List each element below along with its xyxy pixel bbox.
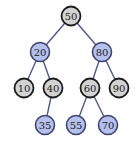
tree-edges [24, 16, 119, 125]
node-label: 55 [70, 120, 83, 131]
tree-node-60: 60 [81, 79, 100, 98]
node-label: 70 [102, 120, 115, 131]
node-label: 90 [113, 83, 126, 94]
binary-tree-diagram: 50208010406090355570 [0, 0, 140, 143]
node-label: 50 [65, 11, 78, 22]
tree-node-70: 70 [99, 116, 118, 135]
tree-node-40: 40 [44, 79, 63, 98]
node-label: 10 [18, 83, 31, 94]
tree-node-55: 55 [67, 116, 86, 135]
node-label: 40 [47, 83, 60, 94]
tree-node-10: 10 [15, 79, 34, 98]
node-label: 20 [34, 47, 47, 58]
node-label: 35 [39, 120, 52, 131]
tree-node-35: 35 [36, 116, 55, 135]
tree-node-20: 20 [31, 43, 50, 62]
tree-node-80: 80 [93, 43, 112, 62]
tree-node-50: 50 [62, 7, 81, 26]
node-label: 60 [84, 83, 97, 94]
tree-node-90: 90 [110, 79, 129, 98]
node-label: 80 [96, 47, 109, 58]
